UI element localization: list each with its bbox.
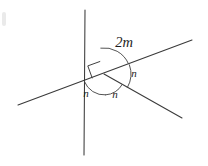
angle-label-n-right: n (131, 67, 137, 79)
geometry-figure: 2m n n n (0, 0, 208, 166)
angle-label-n-bottom-right: n (112, 88, 118, 100)
left-edge-smudge-artifact (2, 12, 6, 26)
angle-diagram-canvas: 2m n n n (0, 0, 208, 166)
angle-label-2m: 2m (115, 34, 133, 50)
angle-label-n-bottom-left: n (83, 87, 89, 99)
